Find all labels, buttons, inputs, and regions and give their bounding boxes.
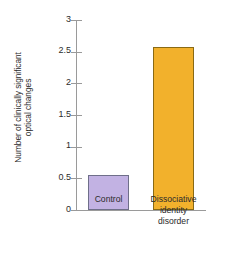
y-tick-label: 3	[66, 14, 71, 24]
x-category-label-line: identity	[129, 205, 219, 216]
y-axis-title: Number of clinically significant optical…	[0, 0, 46, 215]
y-tick-label: 2	[66, 77, 71, 87]
y-axis-title-line-2: optical changes	[23, 52, 33, 163]
y-tick-mark	[71, 20, 82, 21]
plot-area: 00.511.522.53	[76, 20, 206, 210]
x-category-label-line: Dissociative	[129, 194, 219, 205]
x-category-label-line: disorder	[129, 216, 219, 227]
y-tick-label: 2.5	[58, 45, 71, 55]
y-tick-mark	[71, 83, 82, 84]
bar-chart: Number of clinically significant optical…	[0, 0, 226, 270]
y-tick-mark	[71, 52, 82, 53]
y-tick-label: 1	[66, 140, 71, 150]
y-tick-label: 1.5	[58, 109, 71, 119]
bar-dissociative-identity-disorder	[153, 47, 194, 210]
y-tick-mark	[71, 178, 82, 179]
x-category-label-dissociative-identity-disorder: Dissociativeidentitydisorder	[129, 194, 219, 228]
y-axis-title-line-1: Number of clinically significant	[13, 52, 23, 163]
y-tick-label: 0.5	[58, 172, 71, 182]
y-tick-mark	[71, 210, 82, 211]
y-tick-mark	[71, 115, 82, 116]
y-tick-mark	[71, 147, 82, 148]
